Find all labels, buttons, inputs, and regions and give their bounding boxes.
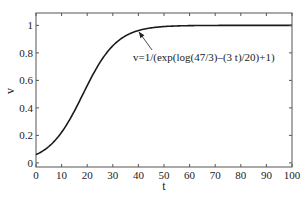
axes-box — [36, 13, 292, 167]
curve-annotation: v=1/(exp(log(47/3)–(3 t)/20)+1) — [133, 32, 275, 64]
x-tick-label: 10 — [56, 169, 68, 181]
plot-area — [36, 13, 292, 167]
x-tick-label: 80 — [235, 169, 247, 181]
x-tick-label: 70 — [210, 169, 222, 181]
y-tick-label: 1 — [28, 19, 34, 31]
y-axis-ticks: 00.20.40.60.81 — [19, 19, 292, 169]
chart: 0102030405060708090100 00.20.40.60.81 t … — [0, 0, 307, 197]
x-tick-label: 60 — [184, 169, 196, 181]
data-line — [36, 25, 292, 154]
y-tick-label: 0.8 — [19, 47, 33, 59]
annotation-text: v=1/(exp(log(47/3)–(3 t)/20)+1) — [133, 51, 275, 64]
y-tick-label: 0.6 — [19, 74, 33, 86]
x-tick-label: 0 — [33, 169, 39, 181]
y-tick-label: 0 — [28, 157, 34, 169]
x-tick-label: 40 — [133, 169, 145, 181]
x-axis-ticks: 0102030405060708090100 — [33, 13, 301, 181]
x-axis-label: t — [162, 179, 166, 193]
x-tick-label: 20 — [82, 169, 94, 181]
x-tick-label: 100 — [284, 169, 301, 181]
x-tick-label: 30 — [107, 169, 119, 181]
arrowhead-icon — [139, 32, 145, 38]
y-tick-label: 0.2 — [19, 129, 33, 141]
y-axis-label: v — [3, 88, 17, 94]
y-tick-label: 0.4 — [19, 102, 33, 114]
x-tick-label: 90 — [261, 169, 273, 181]
